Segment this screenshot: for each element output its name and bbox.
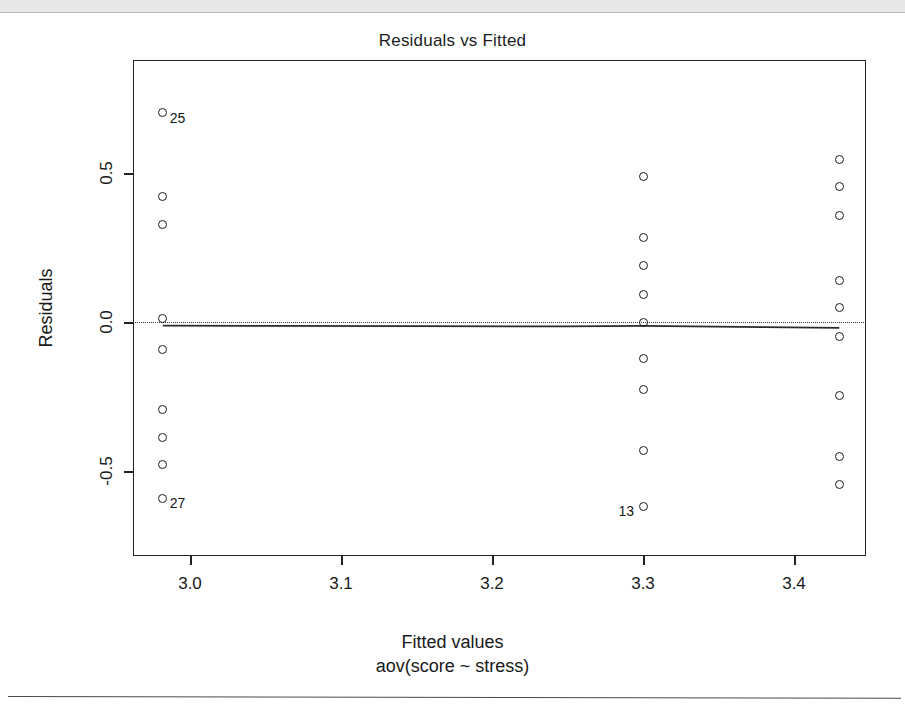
outlier-label: 27 xyxy=(170,496,186,510)
data-point xyxy=(158,460,167,469)
data-point xyxy=(835,332,844,341)
y-axis-tick xyxy=(124,173,133,175)
data-point xyxy=(835,276,844,285)
data-point xyxy=(639,261,648,270)
x-axis-tick-label: 3.2 xyxy=(480,574,504,594)
x-axis-tick xyxy=(643,556,645,565)
y-axis-tick-label: 0.5 xyxy=(97,161,117,185)
data-point xyxy=(835,155,844,164)
outlier-label: 13 xyxy=(618,504,634,518)
scatter-plot-area: 252713 xyxy=(133,60,866,556)
data-point xyxy=(158,192,167,201)
x-axis-tick xyxy=(492,556,494,565)
data-point xyxy=(639,502,648,511)
residuals-vs-fitted-plot: Residuals vs Fitted 252713 3.03.13.23.33… xyxy=(0,0,905,715)
y-axis-tick-label: -0.5 xyxy=(97,456,117,485)
data-point xyxy=(639,318,648,327)
x-axis-tick xyxy=(794,556,796,565)
data-point xyxy=(639,172,648,181)
data-point xyxy=(639,385,648,394)
data-point xyxy=(158,314,167,323)
data-point xyxy=(158,433,167,442)
x-axis-model-label: aov(score ~ stress) xyxy=(0,656,905,677)
outlier-label: 25 xyxy=(170,111,186,125)
y-axis-tick xyxy=(124,471,133,473)
data-point xyxy=(835,391,844,400)
x-axis-tick xyxy=(190,556,192,565)
x-axis-tick-label: 3.0 xyxy=(178,574,202,594)
x-axis-tick-label: 3.4 xyxy=(782,574,806,594)
y-axis-label: Residuals xyxy=(36,268,57,347)
data-point xyxy=(835,303,844,312)
data-point xyxy=(835,480,844,489)
data-point xyxy=(835,182,844,191)
data-point xyxy=(639,446,648,455)
data-point xyxy=(158,405,167,414)
data-point xyxy=(158,220,167,229)
x-axis-tick-label: 3.1 xyxy=(329,574,353,594)
y-axis-tick xyxy=(124,322,133,324)
plot-title: Residuals vs Fitted xyxy=(0,31,905,51)
data-point xyxy=(835,452,844,461)
data-point xyxy=(158,345,167,354)
data-point xyxy=(639,290,648,299)
x-axis-tick xyxy=(341,556,343,565)
data-point xyxy=(639,354,648,363)
data-point xyxy=(158,494,167,503)
data-point xyxy=(835,211,844,220)
data-point xyxy=(158,108,167,117)
x-axis-tick-label: 3.3 xyxy=(631,574,655,594)
x-axis-label: Fitted values xyxy=(0,632,905,653)
y-axis-tick-label: 0.0 xyxy=(97,310,117,334)
data-point xyxy=(639,233,648,242)
